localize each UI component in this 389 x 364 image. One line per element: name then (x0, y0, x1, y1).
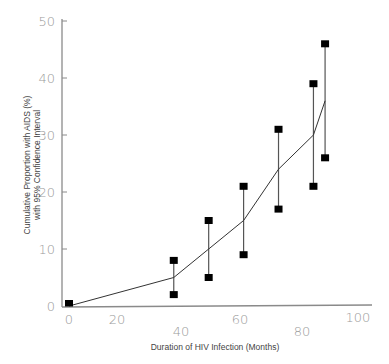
y-tick-label: 40 (38, 71, 55, 86)
axes: 01020304050020406080100 (38, 14, 372, 339)
cumulative-line (69, 101, 325, 306)
y-tick-label: 50 (38, 14, 55, 29)
ci-upper-marker (240, 183, 248, 190)
ci-markers (65, 40, 329, 306)
ci-lower-marker (321, 154, 329, 161)
x-tick-label: 20 (109, 312, 126, 327)
ci-lower-marker (309, 183, 317, 190)
y-axis-title-line1: Cumulative Proportion with AIDS (%) (22, 95, 32, 234)
ci-lower-marker (205, 274, 213, 281)
x-axis-line (62, 305, 372, 307)
chart: 01020304050020406080100 Duration of HIV … (0, 0, 389, 364)
y-tick-label: 0 (47, 299, 55, 314)
data-line (69, 101, 325, 306)
ci-upper-marker (170, 257, 178, 264)
ci-upper-marker (275, 126, 283, 133)
x-tick-label: 80 (294, 324, 311, 339)
ci-lower-marker (170, 291, 178, 298)
x-axis-title: Duration of HIV Infection (Months) (151, 342, 280, 352)
x-tick-label: 0 (65, 312, 73, 327)
ci-upper-marker (309, 80, 317, 87)
x-tick-label: 60 (232, 312, 249, 327)
x-tick-label: 40 (173, 324, 190, 339)
origin-marker (65, 300, 73, 307)
ci-lower-marker (240, 251, 248, 258)
ci-upper-marker (321, 40, 329, 47)
x-tick-label: 100 (346, 310, 371, 325)
y-axis-title-line2: with 95% Confidence Interval (32, 110, 42, 221)
y-tick-label: 10 (38, 242, 55, 257)
ci-upper-marker (205, 217, 213, 224)
confidence-intervals (174, 44, 325, 295)
ci-lower-marker (275, 206, 283, 213)
